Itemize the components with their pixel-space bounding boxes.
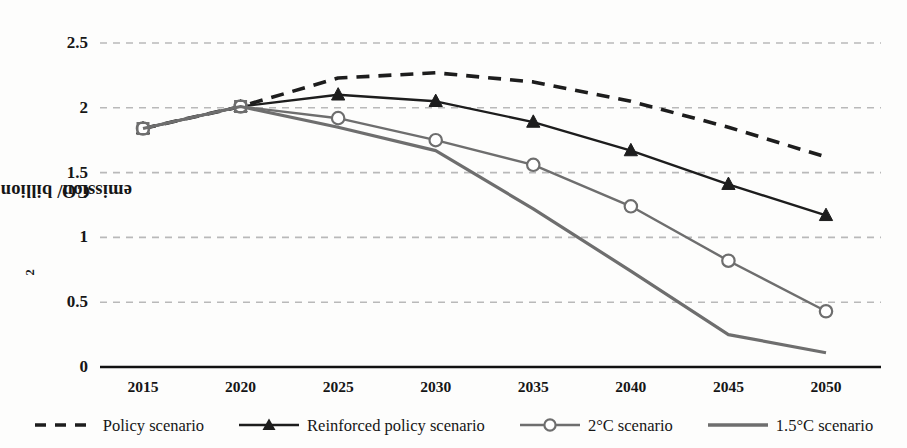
- legend-item-2[interactable]: 2°C scenario: [519, 415, 673, 435]
- legend-label-0: Policy scenario: [103, 416, 204, 436]
- data-point-marker: [527, 159, 539, 171]
- legend-item-3[interactable]: 1.5°C scenario: [707, 415, 873, 435]
- series-2: [137, 100, 832, 317]
- series-line-0: [143, 73, 826, 157]
- series-line-2: [143, 107, 826, 312]
- data-point-marker: [332, 88, 345, 100]
- legend-symbol-1: [238, 417, 300, 433]
- legend-item-1[interactable]: Reinforced policy scenario: [238, 415, 485, 435]
- series-line-3: [143, 107, 826, 353]
- chart-legend: Policy scenarioReinforced policy scenari…: [0, 408, 907, 442]
- legend-label-3: 1.5°C scenario: [776, 416, 873, 436]
- data-point-marker: [332, 112, 344, 124]
- series-3: [143, 107, 826, 353]
- legend-marker: [544, 419, 555, 430]
- legend-symbol-3: [707, 417, 769, 433]
- data-point-marker: [430, 134, 442, 146]
- data-point-marker: [625, 200, 637, 212]
- legend-label-2: 2°C scenario: [588, 416, 673, 436]
- legend-symbol-0: [34, 417, 96, 433]
- data-point-marker: [820, 305, 832, 317]
- plot-area: [0, 0, 907, 400]
- data-point-marker: [722, 255, 734, 267]
- legend-item-0[interactable]: Policy scenario: [34, 415, 204, 435]
- legend-symbol-2: [519, 417, 581, 433]
- chart-figure: CO2 emission/ billion tons 00.511.522.5 …: [0, 0, 907, 448]
- series-0: [143, 73, 826, 157]
- legend-label-1: Reinforced policy scenario: [307, 416, 485, 436]
